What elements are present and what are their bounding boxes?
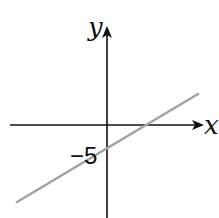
x-axis-label: x	[204, 110, 219, 140]
y-intercept-label: −5	[70, 142, 97, 169]
graph-canvas: y x −5	[0, 0, 219, 218]
y-axis-label: y	[87, 12, 103, 42]
